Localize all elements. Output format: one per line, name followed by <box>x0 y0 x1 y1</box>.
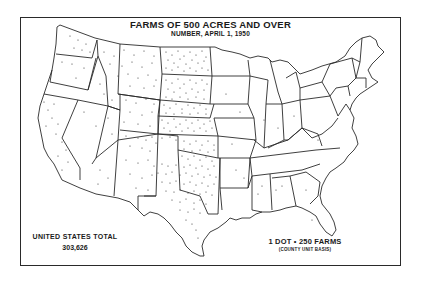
total-value: 303,626 <box>20 244 130 251</box>
us-map <box>0 0 421 285</box>
total-label: UNITED STATES TOTAL <box>20 233 130 240</box>
map-subtitle: NUMBER, APRIL 1, 1950 <box>0 30 421 37</box>
density-dots <box>43 35 318 238</box>
legend-dot-value: 1 DOT • 250 FARMS <box>255 237 355 246</box>
map-title: FARMS OF 500 ACRES AND OVER <box>0 19 421 30</box>
legend-basis: (COUNTY UNIT BASIS) <box>255 247 355 252</box>
